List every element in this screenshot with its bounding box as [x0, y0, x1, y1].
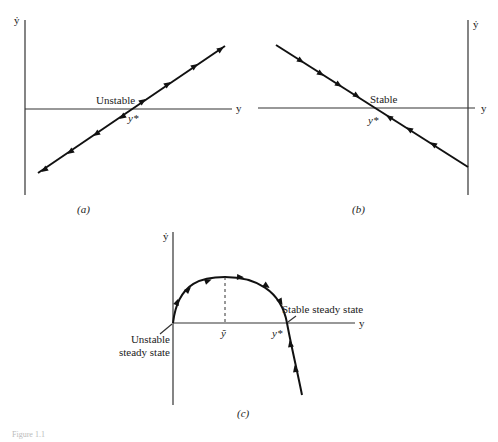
y-axis-label: y: [481, 102, 487, 114]
stability-label: Stable: [370, 93, 398, 105]
y-dot-axis-label: ẏ: [163, 230, 169, 242]
y-axis-label: y: [236, 102, 242, 114]
y-dot-axis-label: ẏ: [473, 18, 479, 30]
panel-c: ẏ y ỹ y* Stable steady state Unstable st…: [119, 230, 365, 420]
equilibrium-label: y*: [127, 112, 139, 124]
panel-b: ẏ y Stable y* (b): [258, 18, 487, 216]
stable-label: Stable steady state: [282, 303, 363, 315]
y-axis-label: y: [359, 317, 365, 329]
equilibrium-label: y*: [271, 327, 283, 339]
caption-b: (b): [352, 203, 365, 216]
phase-diagram: ẏ y Unstable y* (a) ẏ y Stable y*: [0, 0, 498, 442]
stability-label: Unstable: [96, 94, 135, 106]
figure-label: Figure 1.1: [12, 430, 45, 439]
caption-a: (a): [77, 203, 90, 216]
phase-curve: [173, 277, 302, 395]
unstable-label-line1: Unstable: [131, 333, 170, 345]
peak-label: ỹ: [220, 327, 227, 339]
stable-pointer: [288, 316, 296, 322]
phase-line: [276, 45, 468, 167]
unstable-label-line2: steady state: [119, 346, 170, 358]
caption-c: (c): [237, 407, 250, 420]
panel-a: ẏ y Unstable y* (a): [14, 14, 242, 216]
equilibrium-label: y*: [367, 114, 379, 126]
y-dot-axis-label: ẏ: [14, 14, 20, 26]
